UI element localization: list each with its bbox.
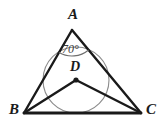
geometry-figure: A B C D 70° xyxy=(0,0,163,128)
angle-measure-label: 70° xyxy=(62,43,79,55)
incenter-dot xyxy=(73,77,78,82)
segment-bd-line xyxy=(24,80,76,113)
geometry-canvas xyxy=(0,0,163,128)
point-label-d: D xyxy=(70,60,80,74)
vertex-label-b: B xyxy=(9,102,19,117)
side-ac-line xyxy=(72,30,141,113)
vertex-label-c: C xyxy=(146,102,156,117)
vertex-label-a: A xyxy=(68,7,78,22)
